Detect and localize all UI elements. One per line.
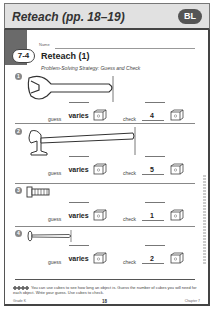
- item-number-3: 3: [15, 187, 22, 194]
- check-label: check: [123, 259, 136, 265]
- name-label: Name: [39, 42, 50, 47]
- wrench-icon: [25, 72, 117, 104]
- bolt-icon: [25, 185, 51, 199]
- guess-label: guess: [48, 216, 61, 222]
- item-number-4: 4: [15, 230, 22, 237]
- cube-icon: [93, 252, 107, 264]
- chapter-label: Chapter 7: [185, 299, 200, 303]
- footer-divider: [15, 279, 195, 280]
- divider: [15, 183, 195, 184]
- cube-icon: [170, 109, 184, 121]
- sheet-title: Reteach (1): [41, 51, 90, 61]
- instructions: You can use cubes to see how long an obj…: [13, 285, 203, 295]
- guess-label: guess: [48, 170, 61, 176]
- item-number-1: 1: [15, 73, 22, 80]
- instructions-text: You can use cubes to see how long an obj…: [13, 285, 197, 295]
- guess-answer-4[interactable]: varies: [66, 255, 91, 262]
- guess-answer-1[interactable]: varies: [66, 112, 91, 119]
- check-label: check: [123, 216, 136, 222]
- level-badge: BL: [178, 9, 202, 24]
- cube-icon: [93, 209, 107, 221]
- check-label: check: [123, 116, 136, 122]
- guess-answer-2[interactable]: varies: [66, 166, 91, 173]
- name-field[interactable]: [55, 48, 195, 49]
- cube-icon: [93, 163, 107, 175]
- cube-icon: [170, 163, 184, 175]
- copyright-strip: [203, 175, 206, 265]
- cube-icon: [93, 109, 107, 121]
- guess-label: guess: [48, 259, 61, 265]
- divider: [15, 123, 195, 124]
- hammer-icon: [25, 125, 137, 157]
- cube-icon: [170, 209, 184, 221]
- header-title: Reteach (pp. 18–19): [12, 10, 125, 24]
- check-answer-2[interactable]: 5: [143, 166, 161, 173]
- item-number-2: 2: [15, 128, 22, 135]
- lesson-number: 7-4: [12, 49, 35, 63]
- guess-label: guess: [48, 116, 61, 122]
- grade-label: Grade K: [13, 299, 26, 303]
- sheet-subtitle: Problem-Solving Strategy: Guess and Chec…: [41, 65, 140, 71]
- worksheet: 7-4 Name Reteach (1) Problem-Solving Str…: [4, 30, 210, 306]
- check-answer-3[interactable]: 1: [143, 212, 161, 219]
- check-answer-4[interactable]: 2: [143, 255, 161, 262]
- divider: [15, 226, 195, 227]
- page-header: Reteach (pp. 18–19) BL: [4, 3, 210, 30]
- page-number: 18: [102, 299, 107, 304]
- check-answer-1[interactable]: 4: [143, 112, 161, 119]
- guess-answer-3[interactable]: varies: [66, 212, 91, 219]
- check-label: check: [123, 170, 136, 176]
- cube-icon: [170, 252, 184, 264]
- nail-icon: [25, 229, 75, 243]
